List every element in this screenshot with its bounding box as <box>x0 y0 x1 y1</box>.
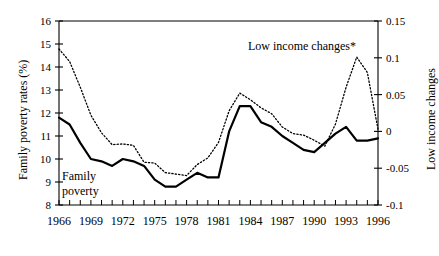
svg-text:1969: 1969 <box>79 214 103 228</box>
svg-text:1978: 1978 <box>175 214 199 228</box>
svg-text:0.05: 0.05 <box>386 89 406 101</box>
svg-text:0.1: 0.1 <box>386 52 400 64</box>
svg-text:12: 12 <box>40 107 51 119</box>
svg-text:0: 0 <box>386 125 392 137</box>
svg-text:8: 8 <box>46 199 52 211</box>
svg-text:1996: 1996 <box>366 214 390 228</box>
svg-text:1981: 1981 <box>207 214 231 228</box>
svg-text:16: 16 <box>40 15 52 27</box>
svg-text:15: 15 <box>40 38 52 50</box>
svg-text:9: 9 <box>46 176 52 188</box>
svg-text:-0.05: -0.05 <box>386 162 409 174</box>
svg-text:1987: 1987 <box>270 214 294 228</box>
svg-text:1966: 1966 <box>47 214 71 228</box>
svg-text:10: 10 <box>40 153 52 165</box>
svg-text:1984: 1984 <box>238 214 262 228</box>
svg-text:1972: 1972 <box>111 214 135 228</box>
svg-text:13: 13 <box>40 84 52 96</box>
svg-text:0.15: 0.15 <box>386 15 406 27</box>
svg-text:1993: 1993 <box>334 214 358 228</box>
svg-text:11: 11 <box>40 130 51 142</box>
svg-text:14: 14 <box>40 61 52 73</box>
svg-text:-0.1: -0.1 <box>386 199 403 211</box>
data-series <box>59 49 378 187</box>
svg-text:1990: 1990 <box>302 214 326 228</box>
svg-text:1975: 1975 <box>143 214 167 228</box>
